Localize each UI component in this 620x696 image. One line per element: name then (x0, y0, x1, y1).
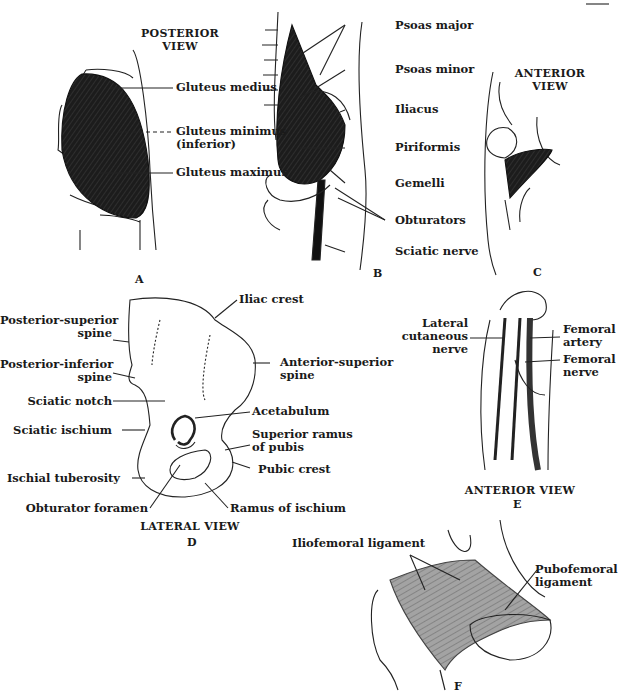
label-obturators: Obturators (395, 214, 466, 227)
label-psoas-minor: Psoas minor (395, 63, 474, 76)
label-femoral-nerve-line2: nerve (563, 366, 616, 379)
panel-a-letter: A (135, 273, 144, 286)
panel-b-letter: B (373, 267, 382, 280)
label-gemelli: Gemelli (395, 177, 445, 190)
label-iliac-crest: Iliac crest (239, 293, 304, 306)
label-sciatic-nerve: Sciatic nerve (395, 245, 479, 258)
anatomy-illustration (0, 0, 620, 696)
panel-c-title-line2: VIEW (510, 80, 590, 93)
label-superior-ramus-line2: of pubis (252, 441, 353, 454)
panel-c-letter: C (533, 266, 542, 279)
panel-c-title-line1: ANTERIOR (510, 67, 590, 80)
panel-a-drawing (58, 50, 173, 250)
label-ischial-tuberosity: Ischial tuberosity (0, 472, 120, 485)
panel-e-drawing (470, 291, 560, 470)
panel-c-title: ANTERIOR VIEW (510, 67, 590, 93)
panel-e-caption: ANTERIOR VIEW (460, 484, 580, 497)
panel-f-letter: F (454, 680, 462, 693)
label-iliofemoral-ligament: Iliofemoral ligament (292, 537, 425, 550)
panel-a-title: POSTERIOR VIEW (125, 27, 235, 53)
label-posterior-superior-spine: Posterior-superior spine (0, 314, 112, 340)
label-psoas-major: Psoas major (395, 19, 473, 32)
label-sciatic-ischium: Sciatic ischium (0, 424, 112, 437)
panel-d-drawing (113, 298, 270, 508)
label-anterior-superior-spine: Anterior-superior spine (280, 356, 393, 382)
panel-a-title-line1: POSTERIOR (125, 27, 235, 40)
label-femoral-nerve: Femoral nerve (563, 353, 616, 379)
label-gluteus-medius: Gluteus medius (176, 81, 277, 94)
label-posterior-superior-line2: spine (0, 327, 112, 340)
label-gluteus-minimus-inferior: (inferior) (176, 138, 236, 151)
label-superior-ramus-of-pubis: Superior ramus of pubis (252, 428, 353, 454)
label-acetabulum: Acetabulum (252, 405, 329, 418)
label-pubofemoral-ligament: Pubofemoral ligament (535, 563, 618, 589)
label-sciatic-notch: Sciatic notch (0, 395, 112, 408)
panel-e-letter: E (513, 498, 521, 511)
label-femoral-artery-line2: artery (563, 336, 616, 349)
label-ramus-of-ischium: Ramus of ischium (230, 502, 346, 515)
label-lateral-cutaneous-nerve: Lateral cutaneous nerve (400, 317, 468, 356)
label-iliacus: Iliacus (395, 103, 438, 116)
panel-d-letter: D (187, 536, 197, 549)
panel-a-title-line2: VIEW (125, 40, 235, 53)
label-femoral-artery: Femoral artery (563, 323, 616, 349)
label-posterior-inferior-line2: spine (0, 371, 112, 384)
label-pubic-crest: Pubic crest (258, 463, 331, 476)
panel-b-drawing (262, 12, 385, 270)
label-gluteus-maximus: Gluteus maximus (176, 166, 288, 179)
label-lateral-cutaneous-line3: nerve (400, 343, 468, 356)
label-pubofemoral-line2: ligament (535, 576, 618, 589)
label-posterior-inferior-spine: Posterior-inferior spine (0, 358, 112, 384)
label-piriformis: Piriformis (395, 141, 460, 154)
label-obturator-foramen: Obturator foramen (0, 502, 148, 515)
panel-d-caption: LATERAL VIEW (130, 520, 250, 533)
label-anterior-superior-line2: spine (280, 369, 393, 382)
panel-c-drawing (485, 72, 560, 275)
